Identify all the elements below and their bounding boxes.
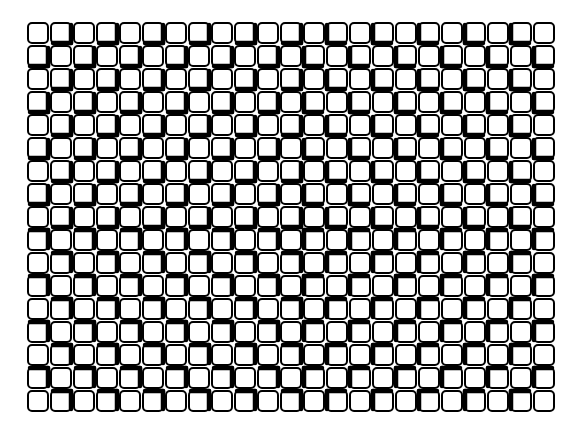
illusion-grid [0,0,588,435]
